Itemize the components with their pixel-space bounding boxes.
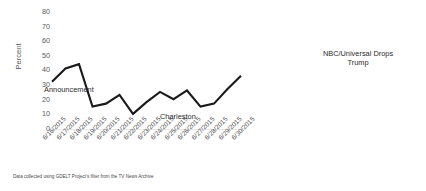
annotation-announcement: Announcement [44,86,94,95]
line-chart: Percent 80706050403020100 6/16/20156/17/… [0,0,426,191]
series-line [0,0,426,191]
annotation-charleston: Charleston [160,113,196,122]
source-footnote: Data collected using GDELT Project's fil… [13,174,154,180]
annotation-nbc-universal-drops-trump: NBC/Universal Drops Trump [316,50,400,67]
